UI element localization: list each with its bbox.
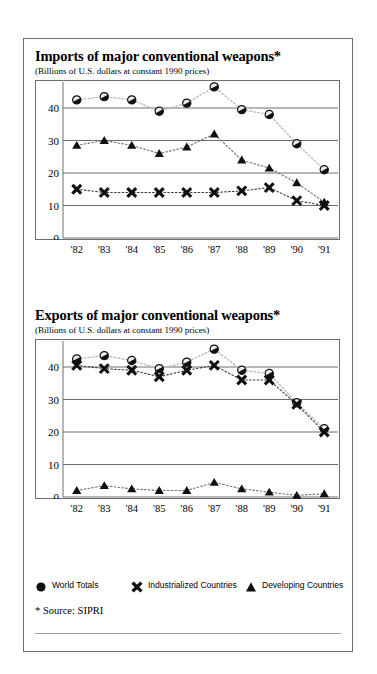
data-point-marker [182,143,191,151]
legend-item-label: Industrialized Countries [148,580,237,590]
x-axis-tick-label: '89 [263,503,275,514]
y-axis-tick-label: 10 [48,200,60,212]
legend-item-label: World Totals [52,580,98,590]
y-axis-tick-label: 40 [48,361,60,373]
data-point-marker [210,478,219,486]
circle-marker-icon [35,579,47,591]
exports-plot-area: 010203040 [35,339,340,499]
triangle-marker-icon [245,579,257,591]
data-point-marker [126,94,136,104]
y-axis-tick-label: 0 [54,491,60,499]
data-point-marker [210,130,219,138]
data-point-marker [181,357,191,367]
x-axis-tick-label: '90 [291,244,303,255]
series-line [77,134,325,202]
x-axis-tick-label: '88 [236,244,248,255]
legend-item: World Totals [35,579,98,591]
data-point-marker [71,94,81,104]
data-point-marker [154,106,164,116]
y-axis-tick-label: 20 [48,167,60,179]
imports-panel-title: Imports of major conventional weapons* [24,48,354,65]
data-point-marker [292,178,301,186]
data-point-marker [99,91,109,101]
legend-item: Developing Countries [245,579,343,591]
x-axis-tick-label: '85 [153,503,165,514]
imports-x-axis-labels: '82'83'84'85'86'87'88'89'90'91 [35,244,340,260]
x-cross-marker-icon [131,579,143,591]
imports-plot-area: 010203040 [35,80,340,240]
x-axis-tick-label: '83 [98,244,110,255]
x-axis-tick-label: '91 [318,503,330,514]
data-point-marker [99,350,109,360]
x-axis-tick-label: '84 [126,503,138,514]
imports-chart-svg: 010203040 [35,80,340,240]
y-axis-tick-label: 30 [48,135,60,147]
x-axis-tick-label: '82 [71,244,83,255]
x-axis-tick-label: '82 [71,503,83,514]
exports-panel: Exports of major conventional weapons* (… [24,307,354,519]
x-axis-tick-label: '85 [153,244,165,255]
data-point-marker [236,365,246,375]
source-note: * Source: SIPRI [35,605,103,616]
data-point-marker [127,484,136,492]
x-axis-tick-label: '88 [236,503,248,514]
data-point-marker [154,363,164,373]
series-line [77,349,325,429]
data-point-marker [72,185,81,194]
x-axis-tick-label: '86 [181,244,193,255]
exports-x-axis-labels: '82'83'84'85'86'87'88'89'90'91 [35,503,340,519]
y-axis-tick-label: 40 [48,102,60,114]
data-point-marker [127,141,136,149]
series-line [77,87,325,170]
data-point-marker [155,372,164,381]
series-line [77,365,325,432]
x-axis-tick-label: '84 [126,244,138,255]
data-point-marker [181,98,191,108]
data-point-marker [126,355,136,365]
data-point-marker [292,196,301,205]
data-point-marker [264,109,274,119]
x-axis-tick-label: '86 [181,503,193,514]
exports-panel-title: Exports of major conventional weapons* [24,307,354,324]
x-axis-tick-label: '87 [208,244,220,255]
data-point-marker [237,376,246,385]
x-axis-tick-label: '87 [208,503,220,514]
y-axis-tick-label: 30 [48,394,60,406]
x-axis-tick-label: '91 [318,244,330,255]
imports-panel: Imports of major conventional weapons* (… [24,48,354,260]
exports-panel-subtitle: (Billions of U.S. dollars at constant 19… [24,324,354,336]
y-axis-tick-label: 10 [48,459,60,471]
x-axis-tick-label: '90 [291,503,303,514]
y-axis-tick-label: 20 [48,426,60,438]
data-point-marker [320,489,329,497]
legend-item-label: Developing Countries [262,580,343,590]
data-point-marker [100,481,109,489]
y-axis-tick-label: 0 [54,232,60,240]
legend-item: Industrialized Countries [131,579,237,591]
imports-panel-subtitle: (Billions of U.S. dollars at constant 19… [24,65,354,77]
x-axis-tick-label: '89 [263,244,275,255]
series-line [77,482,325,495]
chart-legend: World TotalsIndustrialized CountriesDeve… [35,579,343,595]
figure-outer-frame: Imports of major conventional weapons* (… [23,38,353,652]
legend-bottom-divider [35,633,341,634]
data-point-marker [210,361,219,370]
series-line [77,188,325,206]
exports-chart-svg: 010203040 [35,339,340,499]
figure-page: Imports of major conventional weapons* (… [0,0,377,674]
x-axis-tick-label: '83 [98,503,110,514]
